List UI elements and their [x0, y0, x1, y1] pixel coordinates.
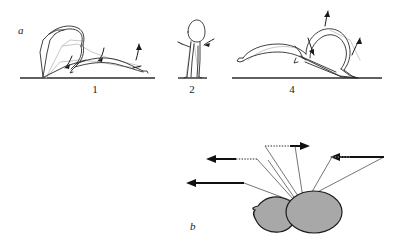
vector-left-upper — [206, 155, 294, 200]
motion-arrow-up-top — [324, 11, 330, 26]
motion-arrow-left-tick — [178, 42, 182, 44]
panel-b-letter: b — [190, 220, 196, 232]
panel-b-vectors — [186, 142, 384, 201]
motion-arrow-up-right — [136, 44, 142, 60]
figure-canvas: a — [0, 0, 395, 243]
panel-b-body — [253, 191, 342, 233]
panel-a-letter: a — [18, 24, 24, 36]
vector-top-right — [265, 142, 310, 199]
step-1-group: 1 — [20, 26, 155, 95]
step-2-body-outline — [182, 20, 205, 78]
vector-left-riser — [268, 160, 296, 200]
step-1-number: 1 — [92, 83, 98, 95]
panel-b: b — [186, 142, 384, 233]
step-2-group: 2 — [178, 20, 214, 95]
motion-arrow-down-left — [65, 56, 72, 69]
step-4-body-outline — [237, 29, 358, 78]
panel-a: a — [18, 11, 382, 95]
motion-arrow-right-into-body — [204, 39, 214, 47]
step-2-motion-arrows — [178, 39, 214, 47]
step-4-number: 4 — [289, 83, 295, 95]
step-4-group: 4 — [232, 11, 382, 95]
step-2-number: 2 — [189, 83, 195, 95]
vector-center-riser — [295, 146, 303, 198]
figure-root: a — [0, 0, 395, 243]
step-1-body-outline — [40, 26, 148, 77]
abdomen-blob — [286, 191, 342, 233]
